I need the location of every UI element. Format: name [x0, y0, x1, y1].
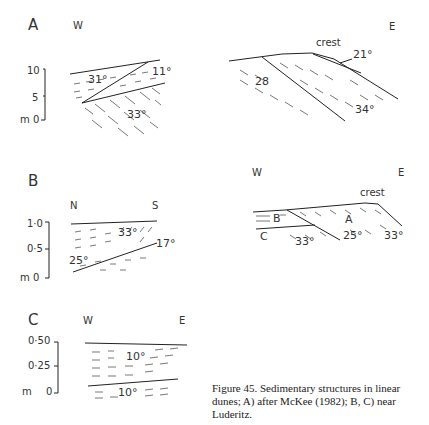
- figure-45: A W 10 5 m 0 31° 11° 33° E crest 28 21° …: [0, 0, 429, 425]
- dir-w: W: [73, 20, 83, 31]
- panel-label-a: A: [28, 16, 39, 34]
- angle-25-b: 25°: [343, 229, 363, 242]
- scale-m: m: [22, 386, 32, 397]
- unit-c: C: [260, 230, 268, 243]
- angle-11: 11°: [152, 65, 172, 78]
- scale-10: 10: [27, 65, 40, 76]
- crest-b: crest: [360, 187, 385, 198]
- angle-10-bottom: 10°: [118, 386, 138, 399]
- angle-31: 31°: [88, 73, 108, 86]
- angle-17: 17°: [156, 237, 176, 250]
- scale-5: 5: [32, 92, 38, 103]
- dir-w-c: W: [83, 315, 93, 326]
- scale-0: m 0: [20, 114, 39, 125]
- crest-a: crest: [316, 37, 341, 48]
- angle-33: 33°: [127, 108, 147, 121]
- dir-s: S: [152, 200, 158, 211]
- dir-e: E: [389, 21, 395, 32]
- panel-label-b: B: [28, 172, 38, 190]
- scale-0: m 0: [20, 272, 39, 283]
- angle-21: 21°: [353, 48, 373, 61]
- angle-25: 25°: [69, 254, 89, 267]
- dir-w-b: W: [252, 167, 262, 178]
- scale-0-25: 0·25: [28, 360, 50, 371]
- scale-1-0: 1·0: [27, 218, 43, 229]
- angle-34: 34°: [355, 103, 375, 116]
- scale-0-50: 0·50: [28, 335, 50, 346]
- scale-0-5: 0·5: [27, 243, 43, 254]
- unit-b: B: [273, 212, 281, 225]
- panel-label-c: C: [28, 311, 38, 329]
- figure-caption: Figure 45. Sedimentary structures in lin…: [212, 382, 427, 421]
- angle-33-c: 33°: [295, 235, 315, 248]
- caption-line-2: dunes; A) after McKee (1982); B, C) near: [212, 395, 427, 408]
- caption-line-1: Figure 45. Sedimentary structures in lin…: [212, 382, 427, 395]
- angle-28: 28: [255, 75, 269, 88]
- dir-n: N: [70, 200, 77, 211]
- dir-e-b: E: [398, 167, 404, 178]
- angle-10-top: 10°: [126, 350, 146, 363]
- dir-e-c: E: [179, 315, 185, 326]
- cross-sections: A W 10 5 m 0 31° 11° 33° E crest 28 21° …: [0, 0, 429, 425]
- unit-a: A: [345, 213, 353, 226]
- caption-line-3: Luderitz.: [212, 408, 427, 421]
- angle-33-b: 33°: [118, 226, 138, 239]
- scale-0-c: 0: [46, 386, 52, 397]
- angle-33-a: 33°: [384, 229, 404, 242]
